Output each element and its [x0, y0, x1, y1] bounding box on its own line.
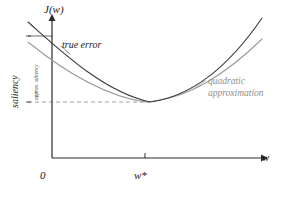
saliency-annotation: saliency: [10, 75, 20, 108]
figure-container: J(w) w 0 w* true error quadratic approxi…: [0, 0, 285, 197]
x-tick-label-origin: 0: [40, 170, 46, 181]
approx-saliency-annotation: approx. saliency: [34, 64, 39, 100]
quadratic-approximation-leader-line: [192, 80, 206, 90]
y-axis-label: J(w): [44, 4, 64, 15]
x-tick-label-w-star: w*: [134, 170, 147, 181]
x-axis-label: w: [262, 152, 269, 163]
quadratic-approximation-annotation: quadratic approximation: [208, 76, 282, 100]
true-error-annotation: true error: [62, 40, 101, 50]
